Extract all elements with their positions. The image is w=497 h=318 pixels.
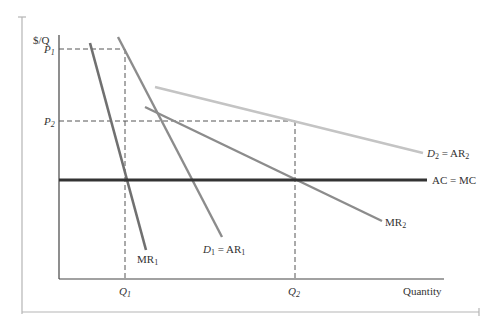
p1-label: P1 <box>43 43 55 57</box>
d1-label: D1 = AR1 <box>202 243 245 257</box>
mr2-curve <box>145 107 382 221</box>
d2-curve <box>155 87 423 153</box>
p2-label: P2 <box>43 115 55 129</box>
x-axis-label: Quantity <box>403 285 442 297</box>
ac-mc-label: AC = MC <box>432 174 476 186</box>
dashed-guides <box>59 49 295 279</box>
q1-label: Q1 <box>119 285 131 299</box>
outer-frame <box>18 17 479 316</box>
price-discrimination-diagram: $/Q P1 P2 Q1 Q2 Quantity MR1 MR2 D1 = AR… <box>0 0 497 318</box>
mr2-label: MR2 <box>385 216 406 230</box>
d2-label: D2 = AR2 <box>426 147 469 161</box>
q2-label: Q2 <box>288 285 300 299</box>
mr1-label: MR1 <box>137 253 158 267</box>
